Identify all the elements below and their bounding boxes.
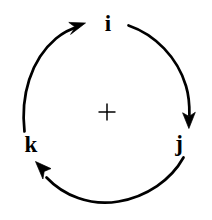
arc-i-to-j bbox=[129, 26, 190, 116]
arrowhead-to-k bbox=[36, 162, 52, 180]
cyclic-diagram: i j k bbox=[0, 0, 212, 220]
vertex-label-i: i bbox=[97, 12, 119, 35]
vertex-label-j: j bbox=[168, 132, 190, 155]
center-cross-icon bbox=[99, 104, 116, 121]
arc-k-to-i bbox=[24, 27, 79, 132]
vertex-label-k: k bbox=[18, 133, 44, 156]
arc-j-to-k bbox=[47, 158, 184, 203]
